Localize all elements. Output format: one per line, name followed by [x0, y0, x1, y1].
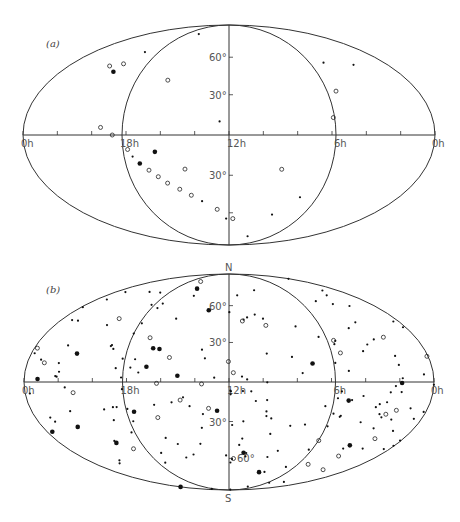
source-marker-filled — [287, 278, 289, 280]
source-marker-filled — [400, 381, 405, 386]
source-marker-filled — [324, 405, 326, 407]
source-marker-filled — [373, 338, 375, 340]
source-marker-filled — [193, 295, 195, 297]
source-marker-filled — [157, 347, 162, 352]
source-marker-filled — [77, 320, 79, 322]
source-marker-filled — [144, 51, 146, 53]
source-marker-filled — [58, 362, 60, 364]
source-marker-open — [156, 175, 160, 179]
source-marker-filled — [230, 393, 232, 395]
source-marker-filled — [392, 445, 394, 447]
source-marker-filled — [178, 485, 183, 490]
source-marker-filled — [299, 196, 301, 198]
source-marker-open — [394, 408, 398, 412]
source-marker-filled — [392, 430, 394, 432]
source-marker-open — [200, 382, 204, 386]
source-marker-filled — [213, 377, 215, 379]
source-marker-filled — [132, 409, 137, 414]
source-marker-open — [189, 193, 193, 197]
source-marker-filled — [413, 418, 415, 420]
source-marker-filled — [326, 294, 328, 296]
source-marker-open — [240, 319, 244, 323]
source-marker-filled — [266, 456, 268, 458]
source-marker-filled — [236, 294, 238, 296]
source-marker-open — [167, 355, 171, 359]
source-marker-filled — [255, 400, 257, 402]
source-marker-open — [178, 398, 182, 402]
source-marker-filled — [289, 425, 291, 427]
source-marker-filled — [49, 416, 51, 418]
source-marker-filled — [247, 485, 249, 487]
source-marker-filled — [402, 377, 404, 379]
dec-label: 60° — [209, 52, 227, 63]
source-marker-open — [71, 391, 75, 395]
source-marker-filled — [192, 453, 194, 455]
source-marker-filled — [346, 398, 351, 403]
source-marker-filled — [254, 313, 256, 315]
source-marker-filled — [399, 440, 401, 442]
source-marker-filled — [218, 120, 220, 122]
source-marker-filled — [185, 456, 187, 458]
source-marker-filled — [265, 410, 267, 412]
source-marker-open — [338, 351, 342, 355]
source-marker-filled — [159, 291, 161, 293]
source-marker-filled — [266, 353, 268, 355]
source-marker-open — [166, 78, 170, 82]
source-marker-filled — [198, 33, 200, 35]
source-marker-open — [207, 406, 211, 410]
source-marker-filled — [112, 406, 114, 408]
source-marker-filled — [238, 444, 240, 446]
south-pole-label: S — [225, 493, 231, 504]
source-marker-open — [42, 361, 46, 365]
source-marker-open — [132, 447, 136, 451]
source-marker-filled — [132, 155, 134, 157]
source-marker-open — [384, 412, 388, 416]
source-marker-filled — [352, 64, 354, 66]
source-marker-filled — [170, 401, 172, 403]
source-marker-open — [147, 168, 151, 172]
source-marker-open — [183, 167, 187, 171]
source-marker-filled — [326, 425, 328, 427]
source-marker-filled — [317, 336, 319, 338]
source-marker-filled — [116, 406, 118, 408]
source-marker-filled — [245, 452, 247, 454]
source-marker-filled — [348, 327, 350, 329]
source-marker-filled — [246, 378, 248, 380]
source-marker-filled — [250, 390, 252, 392]
source-marker-open — [337, 454, 341, 458]
source-marker-filled — [175, 373, 180, 378]
source-marker-filled — [67, 344, 69, 346]
source-marker-filled — [50, 429, 55, 434]
source-marker-filled — [398, 364, 400, 366]
panel-label: (b) — [46, 284, 60, 295]
ra-label: 6h — [334, 138, 347, 149]
source-marker-filled — [332, 303, 334, 305]
panel-label: (a) — [46, 38, 60, 49]
source-marker-open — [373, 437, 377, 441]
source-marker-open — [178, 187, 182, 191]
source-marker-filled — [390, 391, 392, 393]
ra-label: 0h — [22, 385, 35, 396]
source-marker-filled — [121, 388, 123, 390]
source-marker-filled — [165, 437, 167, 439]
source-marker-open — [108, 64, 112, 68]
source-marker-filled — [112, 348, 114, 350]
source-marker-filled — [228, 311, 230, 313]
source-marker-filled — [263, 471, 265, 473]
source-marker-filled — [291, 356, 293, 358]
source-marker-open — [226, 360, 230, 364]
source-marker-filled — [58, 371, 60, 373]
source-marker-filled — [315, 300, 317, 302]
source-marker-filled — [54, 375, 56, 377]
ra-label: 0h — [21, 138, 34, 149]
source-marker-filled — [285, 466, 287, 468]
source-marker-filled — [202, 413, 204, 415]
source-marker-open — [280, 167, 284, 171]
source-marker-filled — [229, 488, 231, 490]
source-marker-filled — [334, 340, 336, 342]
source-marker-filled — [266, 381, 268, 383]
source-marker-filled — [151, 346, 156, 351]
source-marker-filled — [229, 461, 231, 463]
source-marker-open — [264, 323, 268, 327]
source-marker-filled — [103, 408, 105, 410]
